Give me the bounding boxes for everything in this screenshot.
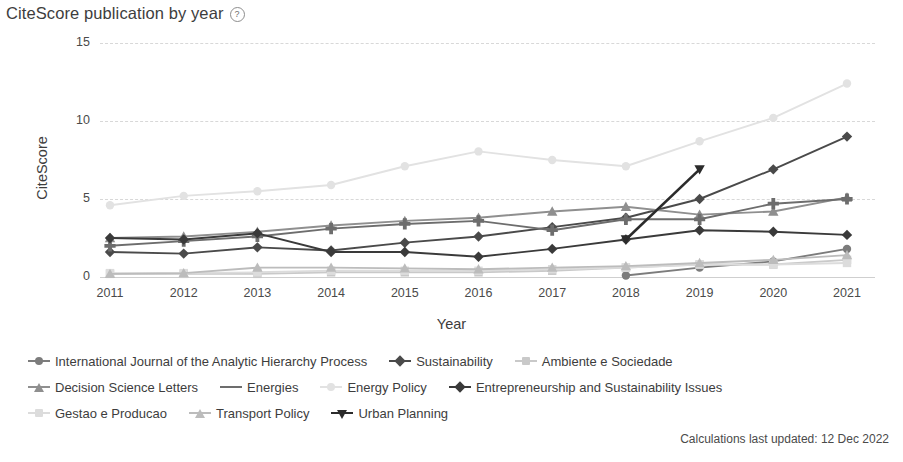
page-title: CiteScore publication by year [6,4,224,23]
data-point-marker [694,194,704,204]
legend-item[interactable]: Sustainability [389,354,493,369]
legend-item[interactable]: Gestao e Producao [28,406,167,421]
legend-item-label: Decision Science Letters [55,380,198,395]
series-plot [0,30,903,300]
chart-header: CiteScore publication by year ? [6,4,245,23]
data-point-marker [401,162,409,170]
x-tick-label: 2011 [80,286,140,300]
legend-marker-icon [320,381,342,393]
legend-row: Gestao e ProducaoTransport PolicyUrban P… [28,400,878,426]
legend-item-label: Urban Planning [358,406,448,421]
data-point-marker [843,259,851,267]
series-line [626,169,700,239]
legend-marker-icon [515,355,537,367]
legend-item-label: Energies [247,380,298,395]
data-point-marker [473,252,483,262]
legend-marker-icon [220,381,242,393]
legend-row: Decision Science LettersEnergiesEnergy P… [28,374,878,400]
legend-item-label: Sustainability [416,354,493,369]
legend-marker-icon [28,355,50,367]
x-tick-label: 2018 [596,286,656,300]
legend-item-label: Ambiente e Sociedade [542,354,673,369]
question-circle-icon[interactable]: ? [230,7,245,22]
data-point-marker [620,214,631,225]
citescore-chart-widget: CiteScore publication by year ? CiteScor… [0,0,903,462]
legend-marker-icon [28,381,50,393]
chart-legend: International Journal of the Analytic Hi… [28,348,878,426]
legend-item[interactable]: Ambiente e Sociedade [515,354,673,369]
series-4[interactable] [104,193,852,251]
data-point-marker [326,247,336,257]
legend-row: International Journal of the Analytic Hi… [28,348,878,374]
x-tick-label: 2012 [154,286,214,300]
legend-item[interactable]: Decision Science Letters [28,380,198,395]
data-point-marker [622,271,630,279]
x-tick-label: 2017 [522,286,582,300]
data-point-marker [768,164,778,174]
legend-item[interactable]: Energies [220,380,298,395]
data-point-marker [768,227,778,237]
legend-item-label: Energy Policy [347,380,426,395]
series-9[interactable] [621,165,705,245]
legend-item[interactable]: Transport Policy [189,406,309,421]
data-point-marker [694,225,704,235]
legend-item-label: Entrepreneurship and Sustainability Issu… [476,380,722,395]
legend-item[interactable]: International Journal of the Analytic Hi… [28,354,367,369]
data-point-marker [841,193,852,204]
data-point-marker [695,137,703,145]
data-point-marker [842,131,852,141]
x-tick-label: 2020 [743,286,803,300]
data-point-marker [622,162,630,170]
legend-item-label: International Journal of the Analytic Hi… [55,354,367,369]
data-point-marker [180,192,188,200]
plot-area: CiteScore 051015 20112012201320142015201… [0,30,903,300]
last-updated-note: Calculations last updated: 12 Dec 2022 [680,432,889,446]
series-6[interactable] [105,225,852,262]
legend-marker-icon [28,407,50,419]
data-point-marker [106,201,114,209]
data-point-marker [769,114,777,122]
data-point-marker [252,242,262,252]
x-tick-label: 2015 [375,286,435,300]
legend-marker-icon [389,355,411,367]
data-point-marker [327,181,335,189]
data-point-marker [547,244,557,254]
data-point-marker [768,198,779,209]
data-point-marker [548,156,556,164]
x-tick-label: 2021 [817,286,877,300]
legend-marker-icon [189,407,211,419]
x-axis-title: Year [0,316,903,332]
legend-item[interactable]: Urban Planning [331,406,448,421]
legend-marker-icon [449,381,471,393]
data-point-marker [842,230,852,240]
x-tick-label: 2013 [227,286,287,300]
data-point-marker [179,248,189,258]
data-point-marker [400,247,410,257]
data-point-marker [253,187,261,195]
data-point-marker [843,79,851,87]
x-tick-label: 2016 [449,286,509,300]
data-point-marker [474,147,482,155]
legend-item[interactable]: Entrepreneurship and Sustainability Issu… [449,380,722,395]
legend-marker-icon [331,407,353,419]
data-point-marker [400,237,410,247]
data-point-marker [473,231,483,241]
series-line [110,84,847,206]
legend-item[interactable]: Energy Policy [320,380,426,395]
series-5[interactable] [106,79,851,209]
x-tick-label: 2014 [301,286,361,300]
legend-item-label: Transport Policy [216,406,309,421]
legend-item-label: Gestao e Producao [55,406,167,421]
x-tick-label: 2019 [670,286,730,300]
